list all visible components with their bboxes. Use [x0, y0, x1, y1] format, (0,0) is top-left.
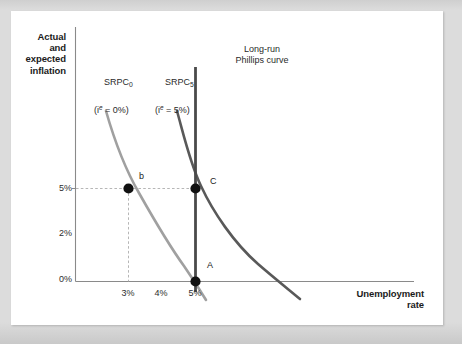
- srpc5-expectation-value: = 5%): [164, 105, 190, 115]
- data-point-label-A: A: [207, 260, 213, 271]
- srpc0-name: SRPC: [104, 77, 129, 87]
- srpc5-expectation-line: (ie = 5%): [155, 104, 194, 116]
- y-tick-label-0pct: 0%: [46, 274, 72, 285]
- data-point-b: [123, 183, 133, 193]
- srpc0-expectation-line: (ie = 0%): [94, 104, 133, 116]
- figure-page: Actualandexpectedinflation Unemploymentr…: [0, 0, 462, 344]
- data-point-A: [190, 276, 200, 286]
- srpc0-expectation-value: = 0%): [103, 105, 129, 115]
- x-axis-title: Unemploymentrate: [318, 288, 424, 310]
- srpc5-name: SRPC: [165, 77, 190, 87]
- data-point-label-b: b: [139, 171, 144, 182]
- curve-label-srpc0: SRPC0 (ie = 0%): [94, 66, 133, 137]
- curve-label-srpc5: SRPC5 (ie = 5%): [155, 66, 194, 137]
- srpc0-subscript: 0: [129, 80, 133, 87]
- data-point-label-C: C: [210, 176, 217, 187]
- srpc5-subscript: 5: [190, 80, 194, 87]
- data-point-C: [190, 183, 200, 193]
- y-tick-label-2pct: 2%: [46, 228, 72, 239]
- x-tick-label-4pct: 4%: [150, 288, 172, 299]
- y-tick-label-5pct: 5%: [46, 183, 72, 194]
- x-tick-label-3pct: 3%: [117, 288, 139, 299]
- x-tick-label-5pct: 5%: [184, 288, 206, 299]
- curve-srpc0: [106, 111, 206, 300]
- y-axis-title: Actualandexpectedinflation: [18, 31, 66, 76]
- curve-label-lrpc: Long-runPhillips curve: [212, 44, 312, 65]
